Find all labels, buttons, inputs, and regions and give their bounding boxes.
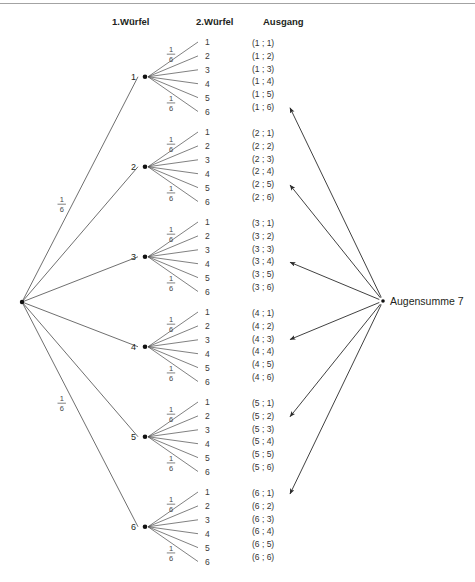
- tree-svg: 1.Würfel2.WürfelAusgang 1616161616161616…: [0, 0, 475, 582]
- stage1-node-label-1: 1: [131, 72, 136, 82]
- event-arrows: [290, 108, 381, 494]
- header-outcome: Ausgang: [263, 16, 304, 27]
- svg-text:1: 1: [169, 405, 173, 414]
- stage2-leaf-1-5: 5: [205, 93, 210, 103]
- stage1-edge-1: [22, 77, 138, 302]
- svg-text:1: 1: [169, 544, 173, 553]
- stage2-leaf-5-3: 3: [205, 425, 210, 435]
- svg-text:6: 6: [169, 415, 173, 424]
- stage1-node-label-6: 6: [131, 522, 136, 532]
- stage1-edges: [22, 77, 138, 527]
- stage2-leaf-5-6: 6: [205, 467, 210, 477]
- stage2-leaf-4-4: 4: [205, 349, 210, 359]
- probability-6-first: 16: [167, 495, 175, 515]
- probability-stage1-first: 16: [58, 195, 66, 215]
- stage2-leaf-2-2: 2: [205, 141, 210, 151]
- probability-5-last: 16: [167, 454, 175, 474]
- probability-3-last: 16: [167, 274, 175, 294]
- probability-3-first: 16: [167, 225, 175, 245]
- svg-text:1: 1: [169, 454, 173, 463]
- svg-text:6: 6: [169, 55, 173, 64]
- outcome--4---5-: (4 ; 5): [252, 359, 274, 369]
- stage2-leaf-3-5: 5: [205, 273, 210, 283]
- svg-text:1: 1: [60, 195, 64, 204]
- probability-stage1-last: 16: [58, 394, 66, 414]
- stage2-leaf-4-2: 2: [205, 321, 210, 331]
- outcome--1---3-: (1 ; 3): [252, 64, 274, 74]
- outcome--4---6-: (4 ; 6): [252, 372, 274, 382]
- stage2-leaf-5-2: 2: [205, 411, 210, 421]
- svg-text:6: 6: [169, 325, 173, 334]
- stage2-leaf-3-3: 3: [205, 245, 210, 255]
- stage2-leaf-3-2: 2: [205, 231, 210, 241]
- stage2-leaf-5-4: 4: [205, 439, 210, 449]
- header-stage1: 1.Würfel: [112, 16, 149, 27]
- svg-text:6: 6: [169, 145, 173, 154]
- probability-2-first: 16: [167, 135, 175, 155]
- svg-text:1: 1: [169, 135, 173, 144]
- stage2-leaf-5-1: 1: [205, 397, 210, 407]
- stage2-leaf-2-4: 4: [205, 169, 210, 179]
- outcome--3---2-: (3 ; 2): [252, 231, 274, 241]
- stage2-leaf-1-2: 2: [205, 51, 210, 61]
- stage2-leaf-4-1: 1: [205, 307, 210, 317]
- svg-text:6: 6: [60, 205, 64, 214]
- probability-tree-diagram: 1.Würfel2.WürfelAusgang 1616161616161616…: [0, 0, 475, 582]
- stage2-leaf-6-5: 5: [205, 543, 210, 553]
- stage1-node-label-5: 5: [131, 432, 136, 442]
- svg-text:6: 6: [169, 374, 173, 383]
- outcome--4---3-: (4 ; 3): [252, 334, 274, 344]
- root-node: [20, 300, 24, 304]
- augensumme-node: Augensumme 7: [381, 295, 464, 307]
- stage2-leaf-1-4: 4: [205, 79, 210, 89]
- stage2-leaf-2-5: 5: [205, 183, 210, 193]
- outcome--1---1-: (1 ; 1): [252, 38, 274, 48]
- svg-text:1: 1: [169, 315, 173, 324]
- outcome--3---4-: (3 ; 4): [252, 256, 274, 266]
- arrow-to--4---3-: [290, 303, 379, 340]
- outcome--1---6-: (1 ; 6): [252, 102, 274, 112]
- outcome--3---1-: (3 ; 1): [252, 218, 274, 228]
- stage1-edge-4: [22, 302, 138, 347]
- stage2-leaf-1-6: 6: [205, 107, 210, 117]
- probability-2-last: 16: [167, 184, 175, 204]
- probability-6-last: 16: [167, 544, 175, 564]
- augensumme-label: Augensumme 7: [390, 295, 464, 307]
- probability-4-first: 16: [167, 315, 175, 335]
- svg-text:1: 1: [60, 394, 64, 403]
- stage2-leaf-6-2: 2: [205, 501, 210, 511]
- stage2-leaf-1-1: 1: [205, 37, 210, 47]
- outcome--3---3-: (3 ; 3): [252, 244, 274, 254]
- stage2-leaf-6-4: 4: [205, 529, 210, 539]
- svg-text:1: 1: [169, 364, 173, 373]
- stage1-nodes: 123456: [20, 72, 148, 532]
- outcome--3---5-: (3 ; 5): [252, 269, 274, 279]
- svg-text:6: 6: [169, 505, 173, 514]
- outcome--4---2-: (4 ; 2): [252, 321, 274, 331]
- stage2-leaf-2-6: 6: [205, 197, 210, 207]
- svg-text:6: 6: [169, 194, 173, 203]
- stage2-leaf-3-4: 4: [205, 259, 210, 269]
- outcome--2---1-: (2 ; 1): [252, 128, 274, 138]
- stage2-leaf-6-6: 6: [205, 557, 210, 567]
- stage2-edges: [148, 42, 198, 562]
- stage2-leaf-2-1: 1: [205, 127, 210, 137]
- outcome--6---5-: (6 ; 5): [252, 539, 274, 549]
- svg-text:6: 6: [169, 554, 173, 563]
- outcome--6---3-: (6 ; 3): [252, 514, 274, 524]
- outcome--4---1-: (4 ; 1): [252, 308, 274, 318]
- outcome--5---3-: (5 ; 3): [252, 424, 274, 434]
- outcome--1---5-: (1 ; 5): [252, 89, 274, 99]
- outcome--2---6-: (2 ; 6): [252, 192, 274, 202]
- stage1-node-dot-6: [143, 524, 148, 529]
- stage1-node-dot-3: [143, 254, 148, 259]
- stage2-leaf-2-3: 3: [205, 155, 210, 165]
- outcome--6---2-: (6 ; 2): [252, 501, 274, 511]
- stage1-edge-3: [22, 257, 138, 302]
- stage2-leaf-4-5: 5: [205, 363, 210, 373]
- outcome--5---5-: (5 ; 5): [252, 449, 274, 459]
- svg-text:1: 1: [169, 495, 173, 504]
- probability-4-last: 16: [167, 364, 175, 384]
- probability-1-first: 16: [167, 45, 175, 65]
- arrow-to--3---4-: [290, 262, 379, 299]
